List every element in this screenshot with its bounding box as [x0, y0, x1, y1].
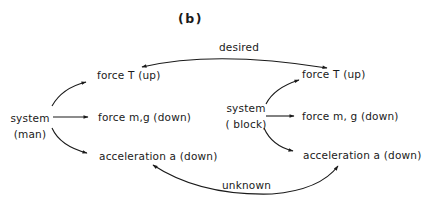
right-system-node: system ( block): [224, 100, 268, 132]
arrow-block-to-force-t: [266, 80, 299, 104]
left-output-acceleration: acceleration a (down): [99, 150, 218, 162]
right-system-qualifier: ( block): [224, 116, 268, 132]
right-output-acceleration: acceleration a (down): [303, 149, 422, 161]
right-system-name: system: [224, 100, 268, 116]
panel-label: (b): [178, 13, 203, 25]
left-output-force-mg: force m,g (down): [98, 111, 191, 123]
arrow-man-to-acceleration: [52, 128, 87, 153]
desired-relation-label: desired: [219, 41, 259, 53]
arrow-man-to-force-t: [52, 82, 86, 106]
left-system-name: system: [8, 110, 52, 126]
right-output-force-t: force T (up): [302, 68, 365, 80]
arrow-block-to-acceleration: [264, 128, 293, 151]
left-system-node: system (man): [8, 110, 52, 142]
desired-relation-arrow: [142, 59, 327, 68]
right-output-force-mg: force m, g (down): [302, 110, 399, 122]
left-output-force-t: force T (up): [97, 69, 160, 81]
left-system-qualifier: (man): [8, 126, 52, 142]
unknown-relation-label: unknown: [222, 179, 271, 191]
